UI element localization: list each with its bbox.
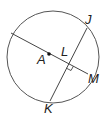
label-a: A [36, 52, 46, 67]
label-j: J [84, 12, 92, 27]
label-m: M [88, 71, 99, 86]
label-l: L [61, 44, 68, 59]
chord-jk [50, 28, 87, 101]
circle-diagram: J A L M K [0, 0, 106, 118]
label-k: K [44, 101, 54, 116]
center-point-a [47, 52, 51, 56]
